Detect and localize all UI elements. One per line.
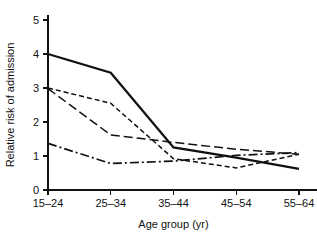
x-tick-label: 55–64	[284, 197, 315, 209]
series-group	[48, 54, 299, 169]
y-tick-label: 0	[33, 184, 39, 196]
y-tick-label: 2	[33, 116, 39, 128]
y-axis-title: Relative risk of admission	[4, 43, 16, 168]
x-tick-label: 25–34	[95, 197, 126, 209]
y-tick-label: 4	[33, 48, 39, 60]
y-tick-label: 1	[33, 150, 39, 162]
x-axis-title: Age group (yr)	[138, 218, 208, 230]
y-tick-label: 5	[33, 14, 39, 26]
x-axis-tick-labels: 15–2425–3435–4445–5455–64	[33, 197, 315, 209]
axis-tick-marks	[43, 20, 299, 195]
series-line-series-3	[48, 89, 299, 155]
y-axis-tick-labels: 012345	[33, 14, 39, 196]
y-tick-label: 3	[33, 82, 39, 94]
x-tick-label: 15–24	[33, 197, 64, 209]
x-tick-label: 35–44	[158, 197, 189, 209]
x-tick-label: 45–54	[221, 197, 252, 209]
line-chart: 012345 15–2425–3435–4445–5455–64 Age gro…	[0, 0, 317, 234]
chart-figure: 012345 15–2425–3435–4445–5455–64 Age gro…	[0, 0, 317, 234]
